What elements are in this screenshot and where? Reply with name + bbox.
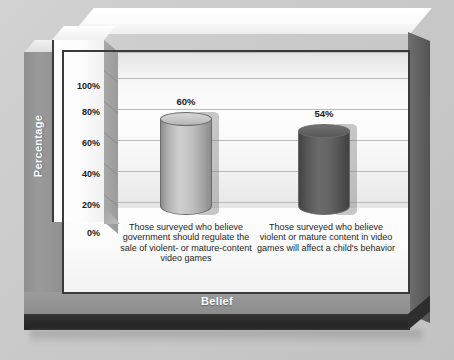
chart-top-cap (94, 8, 412, 13)
x-axis-title: Belief (24, 295, 410, 307)
chart-drop-shadow (30, 330, 422, 344)
y-axis-title: Percentage (32, 76, 44, 216)
chart-right-face (408, 32, 430, 323)
plot-inner-outline (62, 50, 410, 294)
bar-chart: 60% 54% 100% 80% 60% 40% 20% 0% Those su… (0, 0, 454, 360)
chart-base-slab (24, 314, 410, 330)
y-axis-panel-top-bevel (52, 26, 116, 40)
